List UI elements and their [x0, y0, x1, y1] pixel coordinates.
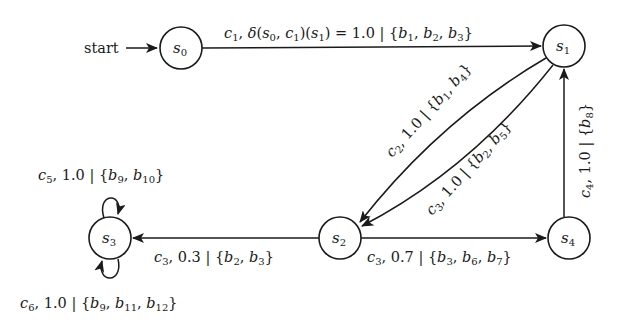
- node-s0: s0: [160, 27, 202, 69]
- node-s4: s4: [548, 217, 590, 259]
- edge-label-s1-s2-c3: c3, 1.0 | {b2, b5}: [422, 118, 516, 219]
- edge-s3-self-c6: [101, 259, 119, 278]
- node-s3: s3: [89, 217, 131, 259]
- edge-s3-self-c5: [103, 198, 119, 218]
- edge-label-s0-s1: c1, δ(s0, c1)(s1) = 1.0 | {b1, b2, b3}: [224, 25, 473, 43]
- state-diagram: start c1, δ(s0, c1)(s1) = 1.0 | {b1, b2,…: [0, 0, 622, 329]
- edge-label-s3-self-c5: c5, 1.0 | {b9, b10}: [38, 167, 164, 185]
- start-label: start: [84, 40, 119, 56]
- edge-s0-s1: [202, 46, 541, 48]
- svg-text:c4, 1.0 | {b8}: c4, 1.0 | {b8}: [577, 103, 595, 198]
- edge-label-s4-s1: c4, 1.0 | {b8}: [577, 103, 595, 198]
- node-s1: s1: [543, 25, 585, 67]
- edge-label-s3-self-c6: c6, 1.0 | {b9, b11, b12}: [20, 295, 178, 313]
- edge-label-s2-s4: c3, 0.7 | {b3, b6, b7}: [367, 249, 512, 267]
- node-s2: s2: [319, 217, 361, 259]
- edge-label-s2-s3: c3, 0.3 | {b2, b3}: [154, 249, 274, 267]
- svg-text:c3, 1.0 | {b2, b5}: c3, 1.0 | {b2, b5}: [422, 118, 516, 219]
